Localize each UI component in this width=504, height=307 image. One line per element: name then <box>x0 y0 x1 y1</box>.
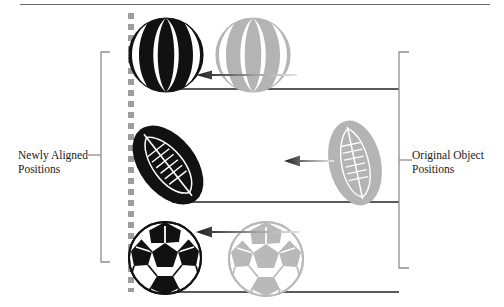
aligned-soccer-ball <box>129 214 201 295</box>
original-soccer-ball <box>229 214 303 296</box>
original-football <box>321 116 390 211</box>
aligned-beach-ball <box>129 18 203 92</box>
newly-aligned-positions-label: Newly Aligned Positions <box>18 148 104 176</box>
original-object-positions-label: Original Object Positions <box>412 148 502 176</box>
alignment-figure: Newly Aligned Positions Original Object … <box>0 0 504 307</box>
original-positions-bracket <box>399 52 412 268</box>
football-motion-arrow <box>284 156 334 167</box>
original-beach-ball <box>216 18 290 92</box>
